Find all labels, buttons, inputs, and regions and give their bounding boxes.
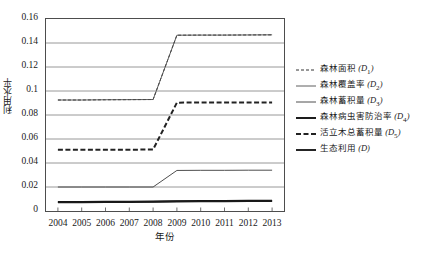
y-tick-label: 0.06	[8, 133, 38, 143]
forest-utilization-line-chart: 利用水平 00.020.040.060.080.10.120.140.16 20…	[0, 0, 431, 255]
legend-item[interactable]: 生态利用 (D)	[295, 142, 431, 158]
legend-label: 活立木总蓄积量 (D5)	[320, 127, 401, 141]
y-axis-tick-labels: 00.020.040.060.080.10.120.140.16	[8, 0, 38, 255]
x-axis-title: 年份	[45, 229, 285, 243]
legend-line-swatch	[295, 96, 317, 108]
x-axis-tick-labels: 2004200520062007200820092010201120122013	[45, 214, 285, 230]
legend-item[interactable]: 活立木总蓄积量 (D5)	[295, 126, 431, 142]
plot-svg	[46, 19, 284, 211]
legend-line-swatch	[295, 112, 317, 124]
plot-area	[45, 18, 285, 212]
series-line	[58, 170, 272, 187]
y-tick-label: 0.14	[8, 37, 38, 47]
y-tick-label: 0	[8, 205, 38, 215]
chart-legend: 森林面积 (D1)森林覆盖率 (D2)森林蓄积量 (D3)森林病虫害防治率 (D…	[295, 62, 431, 158]
series-line	[58, 102, 272, 149]
legend-item[interactable]: 森林病虫害防治率 (D4)	[295, 110, 431, 126]
y-tick-label: 0.02	[8, 181, 38, 191]
y-tick-label: 0.1	[8, 85, 38, 95]
legend-label: 生态利用 (D)	[320, 143, 370, 157]
legend-item[interactable]: 森林面积 (D1)	[295, 62, 431, 78]
legend-label: 森林面积 (D1)	[320, 63, 374, 77]
legend-line-swatch	[295, 144, 317, 156]
legend-line-swatch	[295, 64, 317, 76]
legend-label: 森林病虫害防治率 (D4)	[320, 111, 410, 125]
legend-line-swatch	[295, 80, 317, 92]
legend-label: 森林蓄积量 (D3)	[320, 95, 383, 109]
legend-label: 森林覆盖率 (D2)	[320, 79, 383, 93]
legend-item[interactable]: 森林覆盖率 (D2)	[295, 78, 431, 94]
y-tick-label: 0.16	[8, 13, 38, 23]
y-tick-label: 0.12	[8, 61, 38, 71]
legend-line-swatch	[295, 128, 317, 140]
y-tick-label: 0.08	[8, 109, 38, 119]
x-tick-label: 2013	[252, 218, 292, 228]
legend-item[interactable]: 森林蓄积量 (D3)	[295, 94, 431, 110]
y-tick-label: 0.04	[8, 157, 38, 167]
